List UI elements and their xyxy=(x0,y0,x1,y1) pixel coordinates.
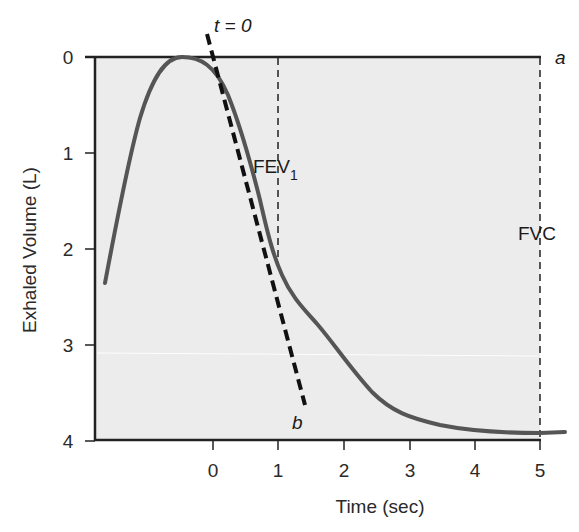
y-tick-label: 3 xyxy=(63,335,74,356)
x-ticks xyxy=(213,440,540,450)
x-tick-label: 3 xyxy=(405,460,416,481)
fev-subscript: 1 xyxy=(290,167,298,183)
x-tick-label: 4 xyxy=(470,460,481,481)
point-a-label: a xyxy=(555,47,566,68)
fev-text: FEV xyxy=(253,156,290,177)
spirometry-chart: 0 1 2 3 4 0 1 2 3 4 5 Time (sec) Exhaled… xyxy=(0,0,579,532)
fvc-label: FVC xyxy=(518,223,556,244)
x-tick-label: 0 xyxy=(208,460,219,481)
y-axis-title: Exhaled Volume (L) xyxy=(19,167,40,333)
y-tick-label: 1 xyxy=(63,143,74,164)
x-tick-label: 2 xyxy=(339,460,350,481)
t0-label: t = 0 xyxy=(214,15,252,36)
plot-area xyxy=(95,57,540,440)
y-tick-label: 0 xyxy=(63,47,74,68)
y-tick-label: 2 xyxy=(63,239,74,260)
x-tick-label: 5 xyxy=(535,460,546,481)
x-tick-label: 1 xyxy=(273,460,284,481)
x-axis-title: Time (sec) xyxy=(335,496,424,517)
y-tick-label: 4 xyxy=(63,431,74,452)
y-ticks xyxy=(85,57,95,441)
point-b-label: b xyxy=(292,412,303,433)
